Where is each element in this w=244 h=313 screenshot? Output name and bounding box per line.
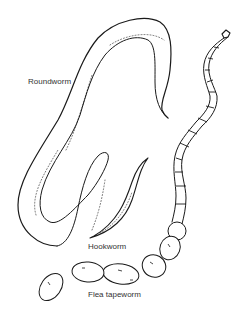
hookworm-drawing <box>90 158 148 238</box>
parasite-illustration: Roundworm Hookworm Flea tapeworm <box>0 0 244 313</box>
hookworm-label: Hookworm <box>88 243 126 251</box>
roundworm-label: Roundworm <box>28 78 71 86</box>
flea-tapeworm-drawing <box>34 30 230 305</box>
flea-tapeworm-label: Flea tapeworm <box>88 291 141 299</box>
worm-drawing <box>0 0 244 313</box>
roundworm-drawing <box>18 19 171 246</box>
